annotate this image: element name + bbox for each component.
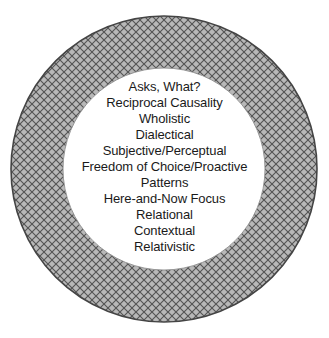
attribute-item: Reciprocal Causality xyxy=(0,95,329,111)
attribute-item: Dialectical xyxy=(0,127,329,143)
attribute-item: Freedom of Choice/Proactive xyxy=(0,159,329,175)
attribute-item: Wholistic xyxy=(0,111,329,127)
attribute-item: Relational xyxy=(0,207,329,223)
attribute-item: Subjective/Perceptual xyxy=(0,143,329,159)
attribute-item: Contextual xyxy=(0,223,329,239)
attribute-list: Asks, What? Reciprocal Causality Wholist… xyxy=(0,79,329,255)
attribute-item: Asks, What? xyxy=(0,79,329,95)
diagram-canvas: Asks, What? Reciprocal Causality Wholist… xyxy=(0,0,329,338)
attribute-item: Patterns xyxy=(0,175,329,191)
attribute-item: Here-and-Now Focus xyxy=(0,191,329,207)
attribute-item: Relativistic xyxy=(0,239,329,255)
